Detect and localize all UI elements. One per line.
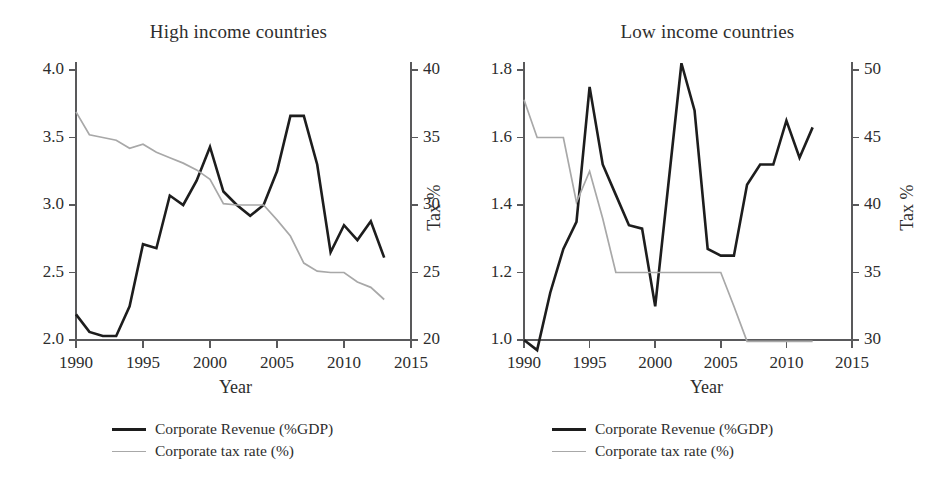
legend-label-revenue: Corporate Revenue (%GDP): [155, 421, 333, 437]
legend-low-income: Corporate Revenue (%GDP) Corporate tax r…: [552, 418, 773, 462]
series-line-corporate-revenue: [524, 63, 813, 350]
legend-label-tax: Corporate tax rate (%): [595, 443, 734, 459]
x-tick-label: 2010: [756, 353, 816, 373]
y-tick-label: 1.2: [457, 262, 512, 282]
y-tick-label: 2.5: [9, 262, 64, 282]
y-tick-label-secondary: 30: [864, 329, 904, 349]
legend-item-revenue: Corporate Revenue (%GDP): [112, 418, 333, 440]
y-axis-label-secondary: Tax %: [424, 178, 445, 238]
x-tick-label: 1995: [560, 353, 620, 373]
figure-root: High income countries 2.02.53.03.54.0202…: [0, 0, 942, 487]
legend-line-revenue-icon: [112, 428, 146, 431]
y-tick-label: 1.0: [457, 329, 512, 349]
legend-line-tax-icon: [112, 451, 146, 452]
series-line-tax-rate: [76, 112, 384, 300]
x-tick-label: 1990: [494, 353, 554, 373]
x-tick-label: 1990: [46, 353, 106, 373]
x-tick-label: 2015: [822, 353, 882, 373]
legend-item-tax: Corporate tax rate (%): [112, 440, 333, 462]
x-tick-label: 2000: [625, 353, 685, 373]
x-tick-label: 2005: [691, 353, 751, 373]
legend-label-tax: Corporate tax rate (%): [155, 443, 294, 459]
x-tick-label: 2010: [314, 353, 374, 373]
y-tick-label: 3.5: [9, 127, 64, 147]
y-tick-label: 1.8: [457, 59, 512, 79]
y-tick-label-secondary: 50: [864, 59, 904, 79]
y-tick-label-secondary: 45: [864, 127, 904, 147]
x-tick-label: 1995: [113, 353, 173, 373]
legend-item-revenue: Corporate Revenue (%GDP): [552, 418, 773, 440]
x-tick-label: 2015: [381, 353, 441, 373]
legend-item-tax: Corporate tax rate (%): [552, 440, 773, 462]
chart-panel-low-income: Low income countries 1.01.21.41.61.83035…: [471, 0, 942, 487]
legend-label-revenue: Corporate Revenue (%GDP): [595, 421, 773, 437]
series-line-tax-rate: [524, 100, 813, 342]
x-axis-label: Year: [471, 377, 942, 398]
x-tick-label: 2000: [180, 353, 240, 373]
y-tick-label-secondary: 35: [864, 262, 904, 282]
y-tick-label: 3.0: [9, 194, 64, 214]
legend-line-tax-icon: [552, 451, 586, 452]
series-line-corporate-revenue: [76, 116, 384, 336]
y-tick-label: 1.4: [457, 194, 512, 214]
legend-line-revenue-icon: [552, 428, 586, 431]
y-tick-label: 2.0: [9, 329, 64, 349]
chart-panel-high-income: High income countries 2.02.53.03.54.0202…: [0, 0, 471, 487]
y-tick-label: 1.6: [457, 127, 512, 147]
y-tick-label: 4.0: [9, 59, 64, 79]
legend-high-income: Corporate Revenue (%GDP) Corporate tax r…: [112, 418, 333, 462]
y-axis-label-secondary: Tax %: [897, 178, 918, 238]
x-tick-label: 2005: [247, 353, 307, 373]
x-axis-label: Year: [0, 377, 471, 398]
